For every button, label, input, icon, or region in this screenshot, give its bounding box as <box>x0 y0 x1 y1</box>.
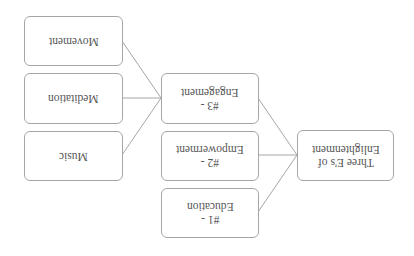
connector-engagement-music <box>122 98 161 155</box>
node-label: Three E's of Enlightenment <box>312 143 380 169</box>
node-education: #1 - Education <box>161 188 259 238</box>
node-label: Music <box>59 150 88 163</box>
node-label: #1 - Education <box>187 200 234 226</box>
node-engagement: #3 - Engagement <box>161 73 259 124</box>
connector-engagement-movement <box>122 41 161 98</box>
node-movement: Movement <box>24 16 123 66</box>
connector-root-engagement <box>258 98 297 155</box>
node-label: Movement <box>49 35 99 48</box>
node-label: #3 - Engagement <box>181 86 238 112</box>
node-root-three-es: Three E's of Enlightenment <box>297 130 394 181</box>
diagram-canvas: Three E's of Enlightenment #1 - Educatio… <box>0 0 414 256</box>
node-music: Music <box>24 131 123 181</box>
node-label: Meditation <box>48 92 98 105</box>
node-meditation: Meditation <box>24 73 123 124</box>
node-label: #2 - Empowerment <box>176 143 244 169</box>
connector-root-education <box>258 155 297 212</box>
node-empowerment: #2 - Empowerment <box>161 131 259 181</box>
